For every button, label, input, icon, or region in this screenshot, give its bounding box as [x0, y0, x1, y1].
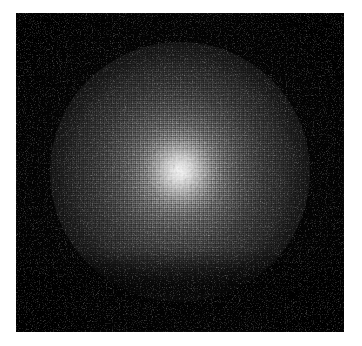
rendered-sphere-image [16, 13, 344, 332]
page-root [0, 0, 362, 346]
sphere-body [50, 42, 310, 302]
